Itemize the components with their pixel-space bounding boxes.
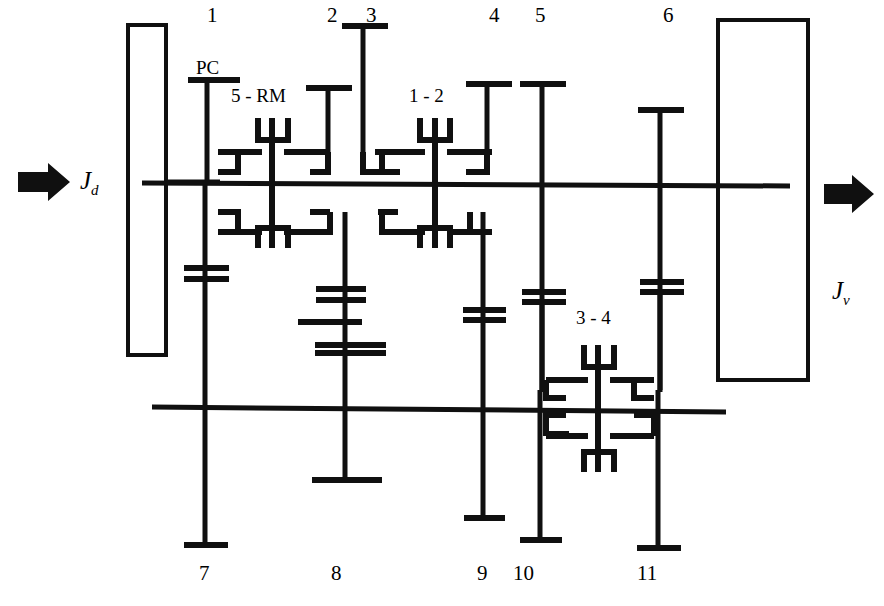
output-inertia-symbol: J [832,277,843,304]
shaft-label-7: 7 [199,563,210,584]
shaft-label-11: 11 [637,563,657,584]
input-inertia-label: Jd [80,168,99,198]
shaft-label-5: 5 [535,5,546,26]
input-inertia-subscript: d [91,182,99,198]
shaft-label-6: 6 [663,5,674,26]
annotation-3-4: 3 - 4 [576,308,611,327]
gear-hub-34-right-bracket [634,415,654,436]
shaft-label-9: 9 [477,563,488,584]
input-housing [128,25,166,355]
output-inertia-subscript: v [843,292,850,308]
output-inertia-label: Jv [832,278,850,308]
shaft-label-10: 10 [513,563,534,584]
annotation-pc: PC [196,58,219,77]
lower-counter-shaft [152,407,726,412]
shaft-label-3: 3 [366,5,377,26]
shaft-label-4: 4 [489,5,500,26]
annotation-5-rm: 5 - RM [231,86,286,105]
upper-main-shaft [142,183,790,186]
input-inertia-symbol: J [80,167,91,194]
input-arrow-icon [18,163,70,201]
shaft-label-2: 2 [327,5,338,26]
shaft-label-1: 1 [207,5,218,26]
output-housing [718,20,808,380]
annotation-1-2: 1 - 2 [409,86,444,105]
output-arrow-icon [824,175,874,213]
shaft-label-8: 8 [331,563,342,584]
diagram-canvas: 1 2 3 4 5 6 7 8 9 10 11 PC 5 - RM 1 - 2 … [0,0,884,606]
